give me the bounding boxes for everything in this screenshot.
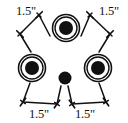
dimension-bottom-right-label: 1.5" [75,107,95,121]
left-ring-circle-center-dot [25,61,39,75]
top-center-ring-circle-center-dot [59,21,73,35]
right-ring-circle-center-dot [91,61,105,75]
dimension-bottom-left-label: 1.5" [29,107,49,121]
dimension-top-right-label: 1.5" [99,4,119,18]
dimension-diagram: 1.5"1.5"1.5"1.5" [0,0,128,123]
dimension-top-right-line [81,15,110,52]
bolt-hole-nodes [19,15,112,85]
diagram-canvas: 1.5"1.5"1.5"1.5" [0,0,128,123]
dimension-bottom-left-line [23,83,61,104]
dimension-top-left-label: 1.5" [16,4,36,18]
dimension-top-left-line [20,15,50,52]
dimension-bottom-right-line [68,83,106,104]
bottom-center-dot [59,72,72,85]
